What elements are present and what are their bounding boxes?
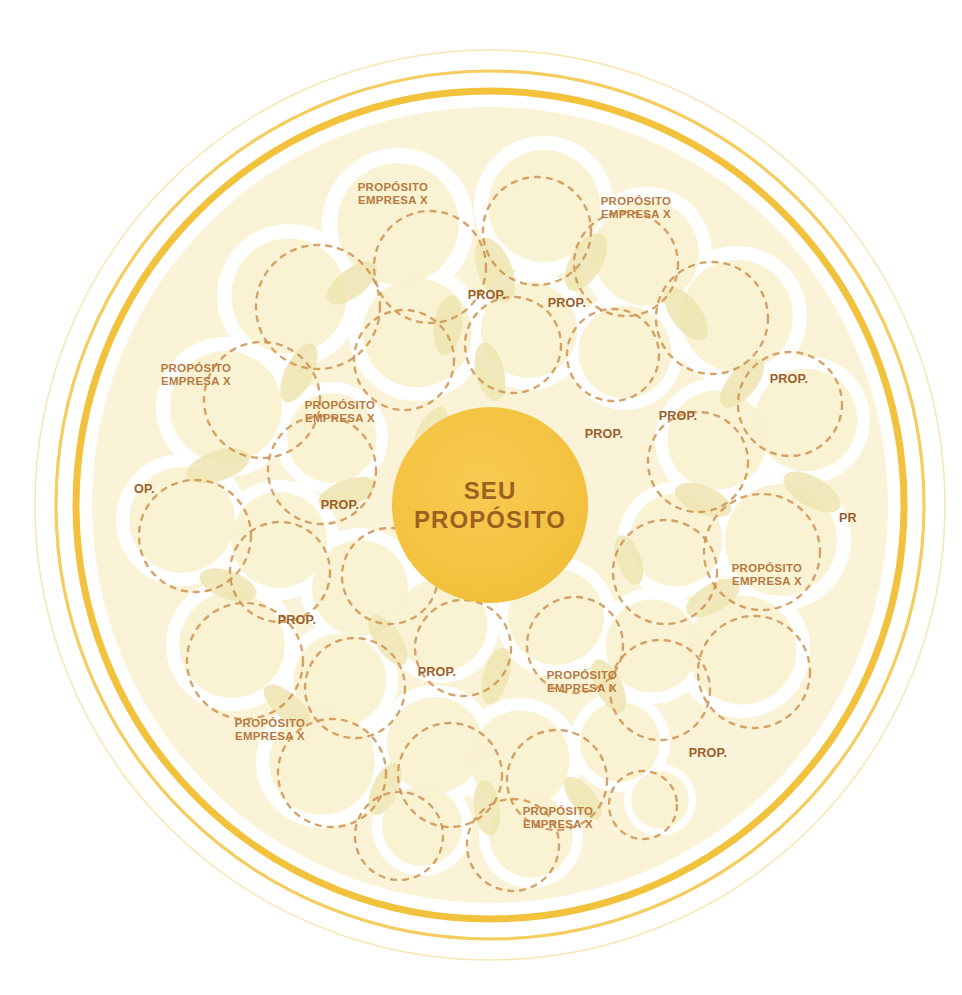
label-company-5-line2: EMPRESA X [732, 575, 803, 588]
core-label: SEU PROPÓSITO [414, 476, 566, 535]
bubble-6 [579, 306, 672, 399]
label-company-2[interactable]: PROPÓSITOEMPRESA X [601, 195, 672, 222]
label-company-4[interactable]: PROPÓSITOEMPRESA X [305, 399, 376, 426]
label-prop-1[interactable]: PROP. [468, 288, 507, 303]
label-prop-8[interactable]: PROP. [418, 665, 457, 680]
label-company-6-line2: EMPRESA X [547, 682, 618, 695]
bubble-17 [179, 592, 285, 698]
bubble-27 [631, 771, 689, 829]
bubble-13 [231, 492, 327, 588]
label-company-6[interactable]: PROPÓSITOEMPRESA X [547, 669, 618, 696]
label-clipped-left[interactable]: OP. [134, 482, 160, 497]
label-prop-2[interactable]: PROP. [548, 296, 587, 311]
label-company-2-line2: EMPRESA X [601, 208, 672, 221]
label-company-4-line2: EMPRESA X [305, 412, 376, 425]
label-prop-6[interactable]: PROP. [321, 498, 360, 513]
core-label-line1: SEU [414, 476, 566, 505]
label-company-8-line1: PROPÓSITO [523, 805, 594, 817]
label-company-3-line1: PROPÓSITO [161, 362, 232, 374]
label-company-5-line1: PROPÓSITO [732, 562, 803, 574]
label-company-5[interactable]: PROPÓSITOEMPRESA X [732, 562, 803, 589]
core-label-line2: PROPÓSITO [414, 505, 566, 534]
label-company-6-line1: PROPÓSITO [547, 669, 618, 681]
label-prop-5[interactable]: PROP. [585, 427, 624, 442]
label-company-4-line1: PROPÓSITO [305, 399, 376, 411]
diagram-canvas: SEU PROPÓSITO PROPÓSITOEMPRESA XPROPÓSIT… [0, 0, 962, 995]
label-company-3-line2: EMPRESA X [161, 375, 232, 388]
label-company-1[interactable]: PROPÓSITOEMPRESA X [358, 181, 429, 208]
label-company-7-line1: PROPÓSITO [235, 717, 306, 729]
label-company-8-line2: EMPRESA X [523, 818, 594, 831]
label-prop-7[interactable]: PROP. [278, 613, 317, 628]
bubble-24 [387, 697, 483, 793]
label-company-3[interactable]: PROPÓSITOEMPRESA X [161, 362, 232, 389]
label-prop-4[interactable]: PROP. [659, 409, 698, 424]
label-company-1-line1: PROPÓSITO [358, 181, 429, 193]
label-company-2-line1: PROPÓSITO [601, 195, 672, 207]
label-prop-3[interactable]: PROP. [770, 372, 809, 387]
bubble-26 [580, 702, 660, 782]
label-company-1-line2: EMPRESA X [358, 194, 429, 207]
label-company-7-line2: EMPRESA X [235, 730, 306, 743]
label-company-7[interactable]: PROPÓSITOEMPRESA X [235, 717, 306, 744]
label-company-8[interactable]: PROPÓSITOEMPRESA X [523, 805, 594, 832]
label-clipped-right[interactable]: PR [839, 511, 859, 526]
label-prop-9[interactable]: PROP. [689, 746, 728, 761]
